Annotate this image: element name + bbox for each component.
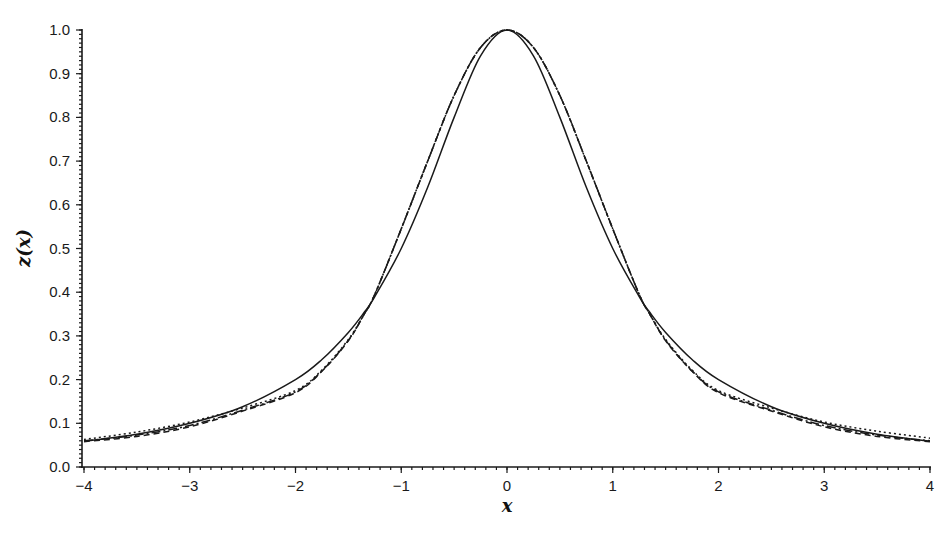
x-tick-label: −4 [75,477,92,494]
y-tick-label: 1.0 [49,21,70,38]
plot-curves [84,30,930,442]
curve-dotted [84,30,930,439]
x-tick-label: 4 [926,477,934,494]
x-axis-ticks: −4−3−2−101234 [75,467,934,494]
x-tick-label: −1 [393,477,410,494]
y-tick-label: 0.8 [49,108,70,125]
y-tick-label: 0.5 [49,240,70,257]
x-axis-label: x [501,495,513,516]
y-axis-ticks: 0.00.10.20.30.40.50.60.70.80.91.0 [49,21,82,475]
y-tick-label: 0.9 [49,65,70,82]
x-tick-label: 3 [820,477,828,494]
y-tick-label: 0.3 [49,327,70,344]
y-tick-label: 0.6 [49,196,70,213]
line-chart: 0.00.10.20.30.40.50.60.70.80.91.0 −4−3−2… [0,0,943,536]
curve-solid [84,30,930,441]
x-tick-label: 1 [609,477,617,494]
x-tick-label: −3 [181,477,198,494]
y-tick-label: 0.7 [49,152,70,169]
y-tick-label: 0.0 [49,458,70,475]
x-tick-label: 0 [503,477,511,494]
y-tick-label: 0.1 [49,414,70,431]
y-tick-label: 0.2 [49,371,70,388]
curve-dash-dot [84,30,930,441]
x-tick-label: −2 [287,477,304,494]
y-tick-label: 0.4 [49,283,70,300]
x-tick-label: 2 [714,477,722,494]
curve-dashed [84,30,930,442]
y-axis-label: z(x) [13,229,34,268]
